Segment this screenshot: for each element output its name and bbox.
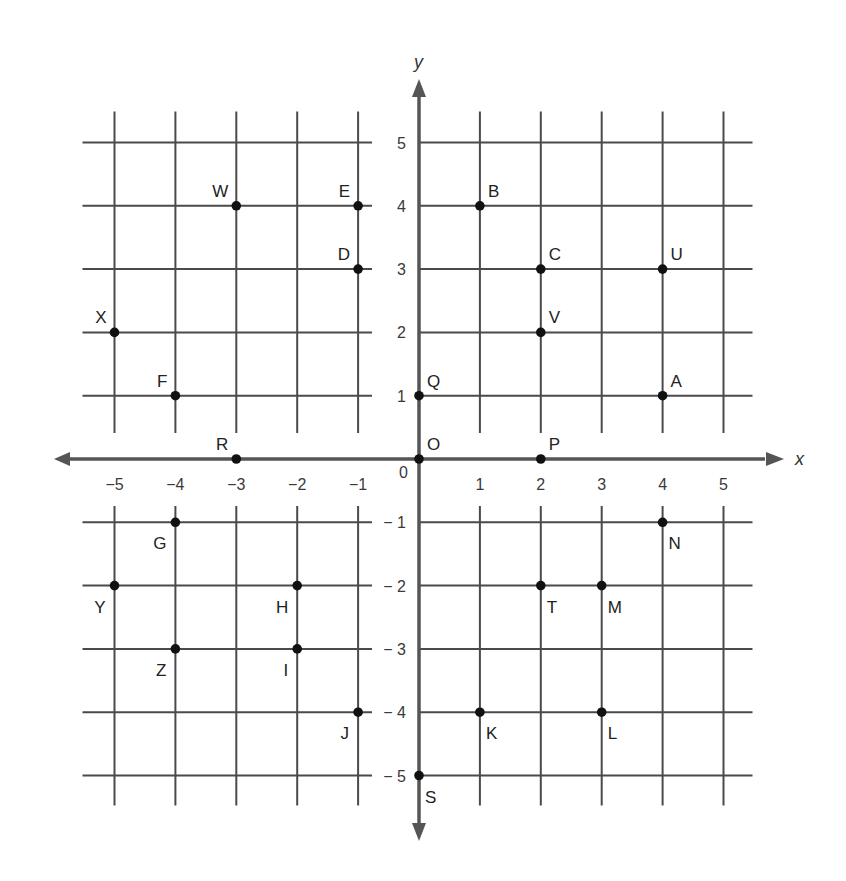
- point-label-y: Y: [94, 598, 105, 617]
- point-label-k: K: [486, 724, 498, 743]
- point-p: [536, 454, 546, 464]
- point-j: [353, 707, 363, 717]
- point-i: [292, 644, 302, 654]
- point-d: [353, 264, 363, 274]
- x-tick-label: 4: [658, 476, 667, 493]
- x-tick-label: 1: [475, 476, 484, 493]
- point-s: [414, 771, 424, 781]
- point-v: [536, 328, 546, 338]
- x-axis-left-arrow-icon: [54, 452, 70, 466]
- point-a: [658, 391, 668, 401]
- point-o: [414, 454, 424, 464]
- point-label-a: A: [671, 372, 683, 391]
- y-axis-up-arrow-icon: [412, 79, 426, 97]
- y-axis-label: y: [412, 52, 424, 72]
- point-label-o: O: [427, 435, 440, 454]
- point-r: [232, 454, 242, 464]
- point-g: [171, 518, 181, 528]
- x-tick-label: 2: [536, 476, 545, 493]
- y-tick-label: 5: [397, 135, 406, 152]
- point-l: [597, 707, 607, 717]
- point-label-q: Q: [427, 372, 440, 391]
- x-tick-label: −2: [288, 476, 306, 493]
- y-tick-label: − 5: [383, 768, 406, 785]
- point-z: [171, 644, 181, 654]
- x-tick-label: −5: [105, 476, 123, 493]
- point-e: [353, 201, 363, 211]
- point-label-w: W: [212, 182, 228, 201]
- point-b: [475, 201, 485, 211]
- x-tick-label: −1: [349, 476, 367, 493]
- point-label-p: P: [549, 435, 560, 454]
- point-label-t: T: [547, 598, 557, 617]
- y-tick-label: 4: [397, 198, 406, 215]
- point-q: [414, 391, 424, 401]
- y-tick-label: − 2: [383, 578, 406, 595]
- point-label-z: Z: [156, 661, 166, 680]
- point-label-c: C: [549, 245, 561, 264]
- y-tick-label: 2: [397, 324, 406, 341]
- point-x: [110, 328, 120, 338]
- x-axis-label: x: [794, 449, 805, 469]
- x-tick-label: −4: [166, 476, 184, 493]
- point-label-e: E: [339, 182, 350, 201]
- y-tick-label: − 1: [383, 514, 406, 531]
- point-label-h: H: [276, 598, 288, 617]
- point-label-f: F: [157, 372, 167, 391]
- point-c: [536, 264, 546, 274]
- point-label-j: J: [341, 724, 350, 743]
- x-tick-label: 3: [597, 476, 606, 493]
- point-t: [536, 581, 546, 591]
- point-label-i: I: [283, 661, 288, 680]
- point-label-b: B: [488, 182, 499, 201]
- point-label-x: X: [95, 308, 106, 327]
- point-label-n: N: [669, 534, 681, 553]
- point-w: [232, 201, 242, 211]
- point-m: [597, 581, 607, 591]
- x-tick-label: −3: [227, 476, 245, 493]
- point-label-v: V: [549, 308, 561, 327]
- point-u: [658, 264, 668, 274]
- y-tick-label: 1: [397, 388, 406, 405]
- x-axis-right-arrow-icon: [766, 452, 784, 466]
- point-label-l: L: [608, 724, 617, 743]
- x-tick-label: 5: [719, 476, 728, 493]
- y-axis-down-arrow-icon: [412, 823, 426, 841]
- point-label-d: D: [338, 245, 350, 264]
- point-label-r: R: [216, 435, 228, 454]
- point-n: [658, 518, 668, 528]
- origin-label: 0: [399, 464, 408, 481]
- point-label-s: S: [425, 788, 436, 807]
- point-label-m: M: [608, 598, 622, 617]
- point-label-u: U: [671, 245, 683, 264]
- y-tick-label: − 4: [383, 704, 406, 721]
- y-tick-label: − 3: [383, 641, 406, 658]
- point-f: [171, 391, 181, 401]
- point-k: [475, 707, 485, 717]
- point-label-g: G: [153, 534, 166, 553]
- y-tick-label: 3: [397, 261, 406, 278]
- coordinate-plane: x y 0 −5−4−3−2−11234554321− 1− 2− 3− 4− …: [0, 0, 846, 881]
- point-h: [292, 581, 302, 591]
- point-y: [110, 581, 120, 591]
